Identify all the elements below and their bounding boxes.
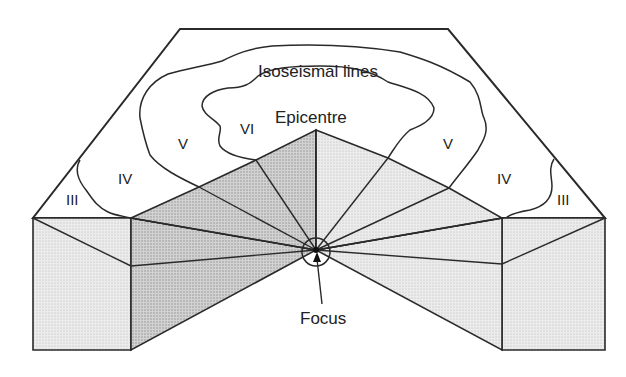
earthquake-focus-epicentre-diagram: Isoseismal lines Epicentre Focus III IV … bbox=[0, 0, 626, 377]
focus-point bbox=[313, 247, 319, 253]
zone-label-left-III: III bbox=[66, 191, 79, 208]
zone-label-left-IV: IV bbox=[118, 170, 132, 187]
zone-label-right-V: V bbox=[443, 135, 453, 152]
left-block-front-face bbox=[33, 218, 131, 350]
zone-label-VI: VI bbox=[240, 120, 254, 137]
epicentre-label: Epicentre bbox=[275, 108, 347, 127]
right-block-front-face bbox=[502, 218, 605, 350]
isoseismal-lines-label: Isoseismal lines bbox=[258, 62, 378, 81]
zone-label-right-III: III bbox=[557, 191, 570, 208]
focus-label: Focus bbox=[300, 309, 346, 328]
focus-arrow bbox=[313, 252, 322, 304]
zone-label-left-V: V bbox=[178, 135, 188, 152]
zone-label-right-IV: IV bbox=[497, 170, 511, 187]
